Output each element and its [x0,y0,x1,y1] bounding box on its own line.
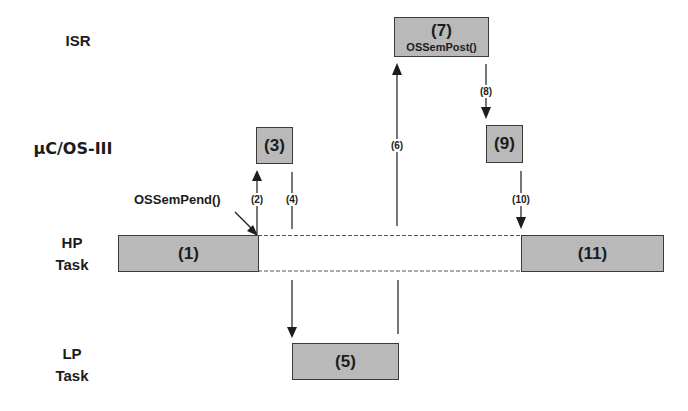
box-9-label: (9) [494,135,515,153]
hp-task-run-box-11: (11) [521,235,664,272]
step-label-2: (2) [251,193,263,206]
ossempend-call-label: OSSemPend() [134,192,221,207]
box-1-label: (1) [178,245,199,263]
isr-box-7: (7) OSSemPost() [394,17,489,57]
step-label-4: (4) [286,193,298,206]
box-11-label: (11) [578,245,607,263]
semaphore-timing-diagram: ISR µC/OS-III HP Task LP Task [0,0,688,411]
box-7-call-label: OSSemPost() [406,41,476,53]
hp-task-run-box-1: (1) [118,235,259,272]
kernel-box-9: (9) [486,125,523,163]
box-5-label: (5) [335,353,356,371]
box-7-label: (7) [431,22,452,40]
lp-task-run-box-5: (5) [292,343,399,380]
ossempend-pointer [235,212,253,230]
box-3-label: (3) [264,137,285,155]
step-label-10: (10) [512,193,530,206]
step-label-6: (6) [391,139,403,152]
step-label-8: (8) [480,85,492,98]
kernel-box-3: (3) [256,127,293,164]
